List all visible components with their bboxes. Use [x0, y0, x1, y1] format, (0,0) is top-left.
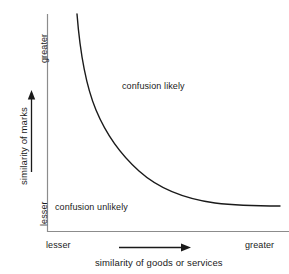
- x-axis-direction-arrow-icon: [119, 244, 191, 252]
- x-axis-low-label: lesser: [46, 241, 71, 250]
- region-label-confusion-likely: confusion likely: [122, 82, 185, 91]
- region-label-confusion-unlikely: confusion unlikely: [55, 203, 128, 212]
- x-axis-high-label: greater: [245, 241, 274, 250]
- likelihood-of-confusion-diagram: similarity of marks greater lesser lesse…: [0, 0, 289, 274]
- confusion-threshold-curve: [77, 14, 280, 206]
- y-axis-low-label: lesser: [40, 201, 49, 226]
- y-axis-title: similarity of marks: [19, 107, 29, 185]
- y-axis-high-label: greater: [40, 34, 49, 63]
- x-axis-title: similarity of goods or services: [95, 258, 223, 268]
